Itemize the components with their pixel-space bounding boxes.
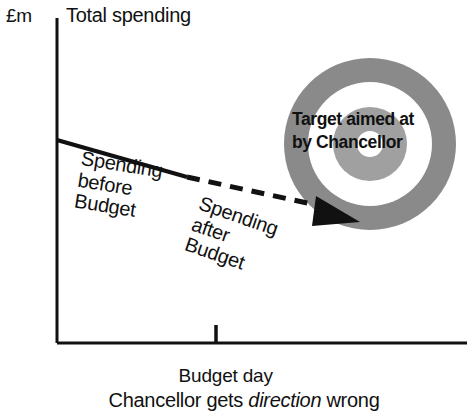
figure-caption: Chancellor gets direction wrong (0, 368, 467, 415)
y-axis-label: £m (6, 6, 32, 27)
page-title: Total spending (66, 5, 191, 27)
arrowhead-icon (312, 196, 360, 226)
series-label-before-budget: Spending before Budget (73, 148, 164, 225)
caption-emphasis: direction (248, 389, 321, 411)
caption-part-2: wrong (321, 389, 379, 411)
target-label: Target aimed at by Chancellor (292, 108, 462, 155)
caption-part-1: Chancellor gets (109, 389, 249, 411)
